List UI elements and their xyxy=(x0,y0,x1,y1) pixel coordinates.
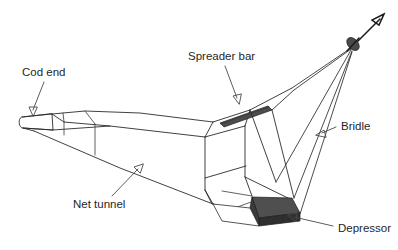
annotation-labels-group: Cod end Spreader bar Net tunnel Bridle D… xyxy=(22,50,391,234)
net-tunnel-group xyxy=(19,111,213,204)
tow-direction-arrowhead xyxy=(372,14,384,25)
net-wing-upper-far xyxy=(250,88,292,110)
net-tunnel-near-top-edge xyxy=(53,126,110,130)
depressor-leader xyxy=(294,217,333,226)
bridle-line-mid xyxy=(276,50,351,182)
label-cod-end: Cod end xyxy=(22,66,65,78)
net-tunnel-seam-top-2 xyxy=(63,113,64,122)
trawl-net-diagram: Cod end Spreader bar Net tunnel Bridle D… xyxy=(0,0,398,250)
label-spreader-bar: Spreader bar xyxy=(188,50,255,62)
diagram-canvas: Cod end Spreader bar Net tunnel Bridle D… xyxy=(0,0,398,250)
towing-assembly-group xyxy=(344,14,384,53)
cod-end-arrowhead xyxy=(29,107,37,116)
net-mouth-top-near-edge xyxy=(205,126,245,137)
bridle-line-top-near xyxy=(294,49,351,90)
label-depressor: Depressor xyxy=(338,222,391,234)
net-mouth-mid-band xyxy=(205,166,246,178)
cod-end-top-edge xyxy=(22,114,52,117)
bridle-arrowhead xyxy=(316,130,326,137)
net-tunnel-lower-edge xyxy=(34,131,213,204)
label-bridle: Bridle xyxy=(341,120,370,132)
depressor-group xyxy=(213,197,300,226)
net-tunnel-back-fold xyxy=(52,114,205,137)
net-mouth-inner-panel-line xyxy=(222,191,252,196)
spreader-bar-leader xyxy=(225,66,237,98)
cod-end-leader xyxy=(33,82,44,110)
net-tunnel-top-ridge xyxy=(52,111,213,122)
label-net-tunnel: Net tunnel xyxy=(73,198,125,210)
net-tunnel-leader xyxy=(112,169,138,196)
net-wing-group xyxy=(245,88,294,200)
spreader-bar-arrowhead xyxy=(233,94,241,104)
net-wing-diagonal-2 xyxy=(272,110,294,198)
net-wing-lower-right xyxy=(245,177,292,200)
spreader-bar-highlight xyxy=(221,107,269,124)
net-wing-diagonal xyxy=(250,110,276,182)
net-tunnel-seam-top-1 xyxy=(85,111,95,124)
bridle-line-bottom xyxy=(300,52,352,214)
